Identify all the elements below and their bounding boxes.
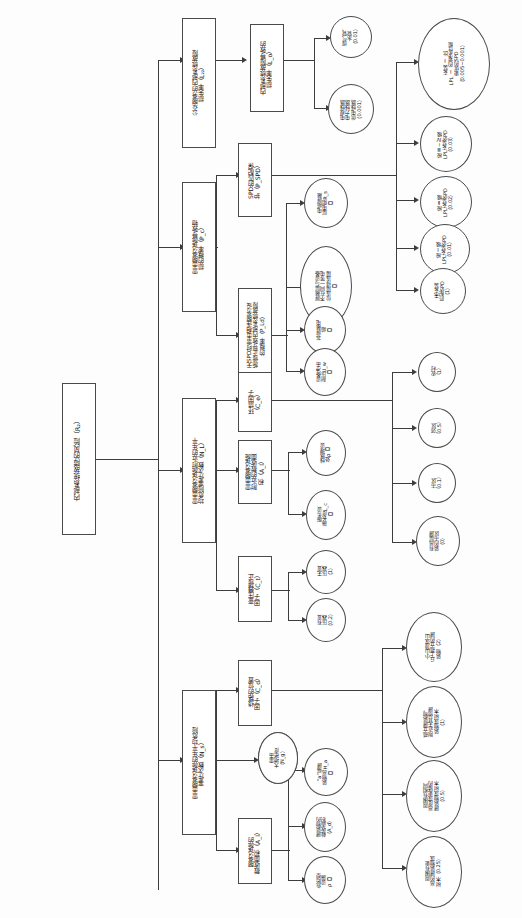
node-spd34[interactable]: 按Ⅲ~Ⅳ级 LPL安装SPD （0.03）: [420, 116, 472, 172]
node-spd2[interactable]: 按Ⅱ级 LPL安装SPD （0.02）: [420, 176, 472, 228]
node-unshielded-label: 非屏蔽电 缆 【】: [316, 320, 333, 340]
node-taller-label: 周围有更 高的建筑物或 树木（0.25）: [425, 856, 442, 887]
edge-Pspd-out: [272, 175, 396, 176]
node-Pspd[interactable]: SPD的匹配保 护（P_SPD）: [238, 143, 272, 217]
node-root[interactable]: 内部系统故障的风险（R₂）: [62, 383, 96, 535]
node-Lc[interactable]: 服务设 施长度L_c 【】: [306, 490, 346, 540]
edge-NL-bus: [216, 400, 217, 590]
edge-env-bus: [392, 372, 393, 542]
edge-to-same-height: [382, 794, 404, 795]
node-same-height[interactable]: 周围有相同 高度或更矮的 建筑物或树木 （0.5）: [406, 760, 462, 832]
node-Ns[interactable]: 雷击服务设施的年平均危险 事件次数（N_s）: [182, 690, 216, 835]
node-root-label: 内部系统故障的风险（R₂）: [75, 417, 82, 501]
arrow-to-spd-none: [414, 287, 419, 293]
node-no-transformer[interactable]: 无变 压器 （1）: [306, 550, 346, 594]
node-spd-best-label: 安装 Ⅰ 比 LPL Ⅰ 的要求性能 更优的SPD （0.005~0.001）: [443, 42, 466, 85]
node-Pld-label: 无SPD时雷击相连服务设 施修正导致内部系统故障 的概率（P_Ld）: [246, 302, 265, 368]
node-Ad[interactable]: 建筑物的 截收面积 （A_d）: [304, 802, 346, 852]
node-Ng-label: 雷击 大地密度 （N_g）: [269, 748, 286, 768]
node-Ct[interactable]: 变压器修正 因子（C_t）: [238, 556, 272, 622]
edge-Al2-bus: [288, 770, 289, 880]
node-Ha[interactable]: “a”端建 筑物高H_a 【】: [304, 748, 348, 796]
node-Lo[interactable]: 内部系统故障导致的 损失率（L_o）: [250, 24, 284, 112]
edge-to-urban-tall: [392, 542, 414, 543]
arrow-to-Lo: [242, 57, 247, 63]
node-Al[interactable]: 雷击服务设施 附近的截收面 积（A_l）: [238, 440, 272, 504]
node-Cd[interactable]: 线路的位置 因子（C_d）: [238, 660, 272, 726]
arrow-to-suburb: [412, 425, 417, 431]
node-NL[interactable]: 雷击服务设施附近的年平 均危险事件次数（N_L）: [182, 398, 216, 543]
edge-root-stub: [96, 459, 158, 460]
edge-Ns-to-Cd: [216, 690, 238, 691]
edge-NL-to-Al: [216, 470, 238, 471]
node-suburb-label: 郊区 （0.5）: [431, 419, 442, 437]
node-rural-label: 农村 （1）: [431, 365, 442, 378]
node-Al-label: 雷击服务设施 附近的截收面 积（A_l）: [245, 454, 265, 490]
node-urban-tall[interactable]: 有高层建 筑的市区 （0）: [416, 516, 460, 566]
node-Pld[interactable]: 无SPD时雷击相连服务设 施修正导致内部系统故障 的概率（P_Ld）: [238, 288, 272, 382]
node-powerline-label: 电视线路 电力线路 供电线路 （0.001）: [340, 97, 363, 122]
node-suburb[interactable]: 郊区 （0.5）: [418, 408, 456, 448]
node-urban[interactable]: 市区 （0.1）: [418, 463, 456, 503]
edge-spd-bus: [396, 62, 397, 290]
edge-to-suburb: [392, 428, 414, 429]
arrow-to-spd34: [414, 140, 419, 146]
node-Pc[interactable]: 雷击服务设施导致物 损的概率（P_c）: [182, 182, 216, 312]
node-uw[interactable]: 设备冲击 耐压U_w 【】: [304, 348, 346, 396]
node-Pspd-label: SPD的匹配保 护（P_SPD）: [248, 162, 262, 199]
node-Ng[interactable]: 雷击 大地密度 （N_g）: [258, 732, 298, 784]
node-Ha-label: “a”端建 筑物高H_a 【】: [317, 760, 334, 785]
node-hill-isolated[interactable]: 小山顶或山 丘上孤立的建 筑物（2）: [406, 612, 462, 682]
edge-L2-to-Lo: [216, 60, 244, 61]
node-taller[interactable]: 周围有更 高的建筑物或 树木（0.25）: [406, 836, 462, 908]
edge-Pc-bus-in: [216, 247, 218, 248]
edge-Pc-to-Pspd: [216, 175, 238, 176]
flowchart-canvas: 内部系统故障的风险（R₂） 公众服务的内部系统故障 损失率（L₂₂） 雷击服务设…: [0, 0, 522, 918]
edge-spd2: [396, 200, 416, 201]
edge-Ce-out: [272, 400, 392, 401]
node-spd1[interactable]: 按Ⅰ级 LPL安装SPD （0.01）: [420, 224, 470, 274]
node-spd-none[interactable]: 未安装 匹配SPD （1）: [420, 268, 466, 314]
node-hill-isolated-label: 小山顶或山 丘上孤立的建 筑物（2）: [425, 632, 442, 662]
node-urban-label: 市区 （0.1）: [431, 474, 442, 492]
arrow-to-rural: [412, 369, 417, 375]
edge-Lo-branch: [314, 38, 315, 108]
node-spd-best[interactable]: 安装 Ⅰ 比 LPL Ⅰ 的要求性能 更优的SPD （0.005~0.001）: [418, 18, 490, 110]
edge-Lo-out: [284, 60, 314, 61]
node-unshielded[interactable]: 非屏蔽电 缆 【】: [304, 306, 346, 354]
edge-Al2-bus-in: [272, 850, 290, 851]
edge-spine-to-L2: [158, 60, 182, 61]
node-Pc-label: 雷击服务设施导致物 损的概率（P_c）: [192, 220, 206, 274]
edge-spd-none: [396, 290, 416, 291]
node-NL-label: 雷击服务设施附近的年平 均危险事件次数（N_L）: [192, 438, 206, 504]
node-shield-rs[interactable]: 电缆屏蔽 层电阻R_s 【】: [304, 178, 348, 228]
node-rural[interactable]: 农村 （1）: [418, 352, 456, 392]
edge-Al-bus-in: [272, 470, 290, 471]
edge-Ct-bus: [288, 572, 289, 620]
node-Pb[interactable]: 危险型 设施 ρ【】: [304, 856, 346, 904]
node-has-transformer[interactable]: 有变 压器 （0.2）: [306, 598, 346, 642]
node-no-transformer-label: 无变 压器 （1）: [317, 565, 334, 578]
node-powerline[interactable]: 电视线路 电力线路 供电线路 （0.001）: [328, 84, 374, 134]
node-Ce[interactable]: 环境因子 （C_e）: [238, 372, 272, 432]
node-Cd-label: 线路的位置 因子（C_d）: [248, 675, 262, 710]
node-Al2[interactable]: 服务设施的 截收面积（A_l）: [238, 818, 272, 884]
node-L22[interactable]: 公众服务的内部系统故障 损失率（L₂₂）: [182, 18, 216, 148]
node-gas-label: 煤气管、 水管 （0.01）: [342, 26, 359, 47]
node-uw-label: 设备冲击 耐压U_w 【】: [316, 362, 333, 382]
edge-Ns-bus: [216, 690, 217, 850]
node-Ns-label: 雷击服务设施的年平均危险 事件次数（N_s）: [192, 727, 206, 799]
node-L22-label: 公众服务的内部系统故障 损失率（L₂₂）: [192, 50, 206, 116]
edge-main-spine: [158, 60, 159, 890]
edge-Pc-to-Pld: [216, 335, 238, 336]
node-spd-none-label: 未安装 匹配SPD （1）: [434, 281, 451, 301]
edge-Ns-to-Al2: [216, 850, 238, 851]
node-isolated[interactable]: 孤立建筑物， 附近无其他建 筑物或树木 （1）: [406, 686, 462, 758]
node-rho[interactable]: 线路埋设 处ρ【】: [306, 430, 346, 476]
node-has-transformer-label: 有变 压器 （0.2）: [317, 611, 334, 629]
node-Ad-label: 建筑物的 截收面积 （A_d）: [316, 817, 333, 837]
node-Ct-label: 变压器修正 因子（C_t）: [248, 572, 262, 606]
node-gas[interactable]: 煤气管、 水管 （0.01）: [330, 16, 372, 58]
edge-to-urban: [392, 483, 414, 484]
node-isolated-label: 孤立建筑物， 附近无其他建 筑物或树木 （1）: [423, 707, 446, 737]
